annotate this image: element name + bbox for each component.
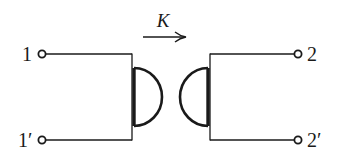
coupling-arrow-icon: [143, 32, 186, 42]
coupling-label: K: [156, 10, 171, 31]
terminal-2-prime: [294, 136, 301, 143]
terminal-1: [38, 50, 45, 57]
port-label-1-prime: 1′: [18, 129, 32, 151]
terminal-2: [294, 50, 301, 57]
port-label-1: 1: [22, 43, 32, 65]
left-coupler-dome: [134, 68, 162, 126]
left-port-block: [38, 50, 162, 143]
right-coupler-dome: [180, 68, 208, 126]
right-port-block: [180, 50, 302, 143]
coupling-diagram: K 1 1′ 2 2′: [0, 0, 348, 156]
terminal-1-prime: [38, 136, 45, 143]
port-label-2: 2: [307, 43, 317, 65]
port-label-2-prime: 2′: [307, 129, 321, 151]
